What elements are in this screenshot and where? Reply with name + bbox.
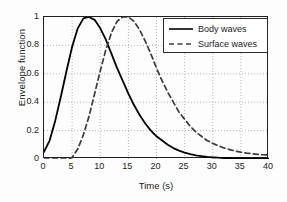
x-tick-label: 40 <box>248 161 287 171</box>
legend-line-swatch <box>168 39 194 49</box>
legend-label: Body waves <box>198 24 247 34</box>
y-tick-label: 0.4 <box>0 96 39 106</box>
chart-figure: Envelope function 00.20.40.60.81 0510152… <box>0 0 287 202</box>
legend-item: Body waves <box>164 21 267 36</box>
x-axis-tick-labels: 0510152025303540 <box>43 161 268 175</box>
x-axis-label: Time (s) <box>43 180 269 191</box>
legend-item: Surface waves <box>164 36 267 51</box>
y-tick-label: 1 <box>0 11 39 21</box>
chart-legend: Body wavesSurface waves <box>163 18 268 53</box>
y-tick-label: 0.2 <box>0 125 39 135</box>
legend-line-swatch <box>168 24 194 34</box>
y-tick-label: 0.8 <box>0 39 39 49</box>
y-axis-tick-labels: 00.20.40.60.81 <box>0 16 39 158</box>
y-tick-label: 0.6 <box>0 68 39 78</box>
legend-label: Surface waves <box>198 39 257 49</box>
